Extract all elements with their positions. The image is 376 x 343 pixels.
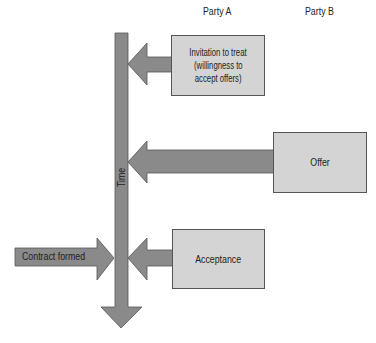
column-header-party-b: Party B (305, 6, 334, 17)
invitation-to-treat-box: Invitation to treat (willingness to acce… (171, 35, 265, 96)
offer-label: Offer (310, 156, 329, 169)
acceptance-arrow (128, 238, 173, 280)
contract-formation-diagram: Party A Party B Time Invitation to treat… (0, 0, 376, 343)
contract-formed-label: Contract formed (22, 251, 85, 262)
invitation-line-1: Invitation to treat (189, 46, 246, 59)
offer-arrow (128, 141, 274, 183)
acceptance-label: Acceptance (195, 253, 241, 266)
invitation-arrow (128, 43, 172, 85)
acceptance-box: Acceptance (172, 229, 265, 289)
column-header-party-a: Party A (203, 6, 231, 17)
timeline-label-text: Time (117, 167, 128, 186)
timeline-label: Time (116, 162, 128, 192)
offer-box: Offer (273, 132, 367, 193)
invitation-line-3: accept offers) (195, 72, 242, 85)
invitation-line-2: (willingness to (194, 59, 243, 72)
